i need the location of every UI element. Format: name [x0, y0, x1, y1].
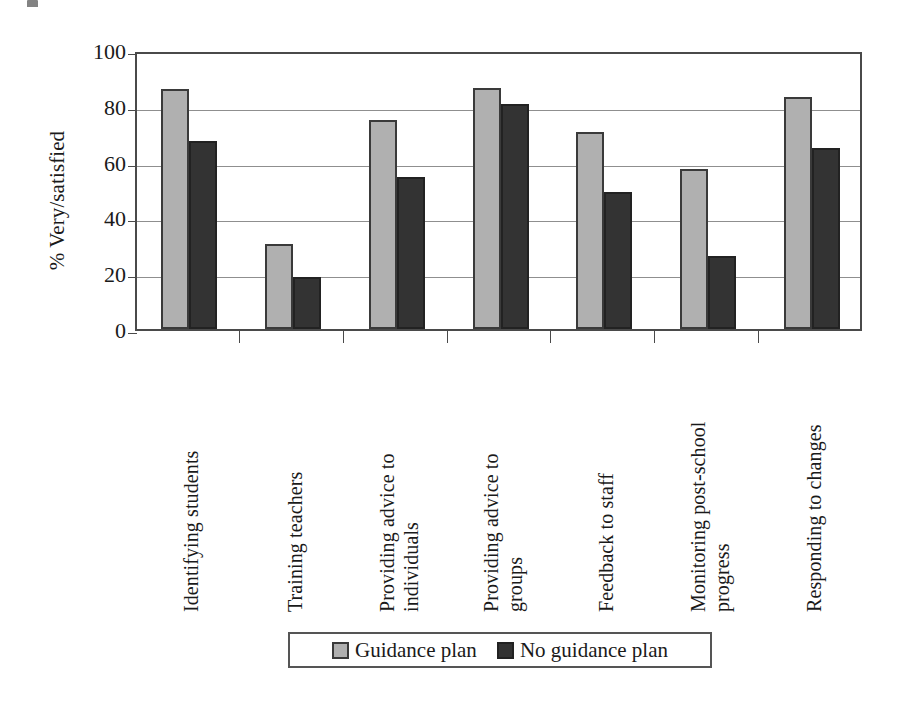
- y-axis-tick-mark: [128, 110, 137, 111]
- y-axis-tick-label: 80: [58, 97, 126, 119]
- bar-guidance-plan: [369, 120, 397, 329]
- x-axis-category-label: Responding to changes: [802, 350, 826, 612]
- legend-entry: No guidance plan: [497, 640, 668, 661]
- bar-no-guidance-plan: [189, 141, 217, 329]
- plot-area: [135, 52, 862, 331]
- legend-entry: Guidance plan: [332, 640, 477, 661]
- x-axis-tick-mark: [758, 331, 759, 343]
- bar-guidance-plan: [265, 244, 293, 329]
- legend-label: No guidance plan: [520, 640, 668, 661]
- x-axis-category-label: Feedback to staff: [594, 350, 618, 612]
- bar-no-guidance-plan: [708, 256, 736, 329]
- bar-guidance-plan: [473, 88, 501, 329]
- x-axis-tick-mark: [239, 331, 240, 343]
- y-axis-tick-mark: [128, 277, 137, 278]
- bar-no-guidance-plan: [812, 148, 840, 329]
- legend-swatch-icon: [497, 642, 514, 659]
- chart-legend: Guidance planNo guidance plan: [288, 632, 712, 668]
- bar-guidance-plan: [784, 97, 812, 329]
- x-axis-tick-mark: [550, 331, 551, 343]
- x-axis-category-label: Monitoring post-school progress: [686, 350, 734, 612]
- bar-guidance-plan: [161, 89, 189, 329]
- bar-guidance-plan: [680, 169, 708, 329]
- bar-chart-figure: % Very/satisfied 020406080100 Identifyin…: [0, 0, 905, 701]
- y-axis-tick-mark: [128, 333, 137, 334]
- x-axis-category-label: Providing advice to individuals: [375, 350, 423, 612]
- bar-no-guidance-plan: [501, 104, 529, 329]
- bar-no-guidance-plan: [397, 177, 425, 329]
- y-axis-tick-label: 60: [58, 153, 126, 175]
- y-axis-tick-label: 40: [58, 208, 126, 230]
- y-axis-tick-label: 0: [58, 320, 126, 342]
- legend-label: Guidance plan: [355, 640, 477, 661]
- legend-swatch-icon: [332, 642, 349, 659]
- y-axis-tick-label: 20: [58, 264, 126, 286]
- bar-no-guidance-plan: [293, 277, 321, 329]
- y-axis-tick-mark: [128, 166, 137, 167]
- y-axis-tick-mark: [128, 54, 137, 55]
- x-axis-category-label: Providing advice to groups: [479, 350, 527, 612]
- x-axis-tick-mark: [447, 331, 448, 343]
- y-axis-tick-mark: [128, 221, 137, 222]
- x-axis-tick-mark: [343, 331, 344, 343]
- x-axis-category-label: Training teachers: [283, 350, 307, 612]
- bar-no-guidance-plan: [604, 192, 632, 329]
- y-axis-tick-labels: 020406080100: [58, 40, 126, 340]
- x-axis-category-label: Identifying students: [179, 350, 203, 612]
- x-axis-tick-mark: [654, 331, 655, 343]
- y-axis-tick-label: 100: [58, 41, 126, 63]
- bar-guidance-plan: [576, 132, 604, 329]
